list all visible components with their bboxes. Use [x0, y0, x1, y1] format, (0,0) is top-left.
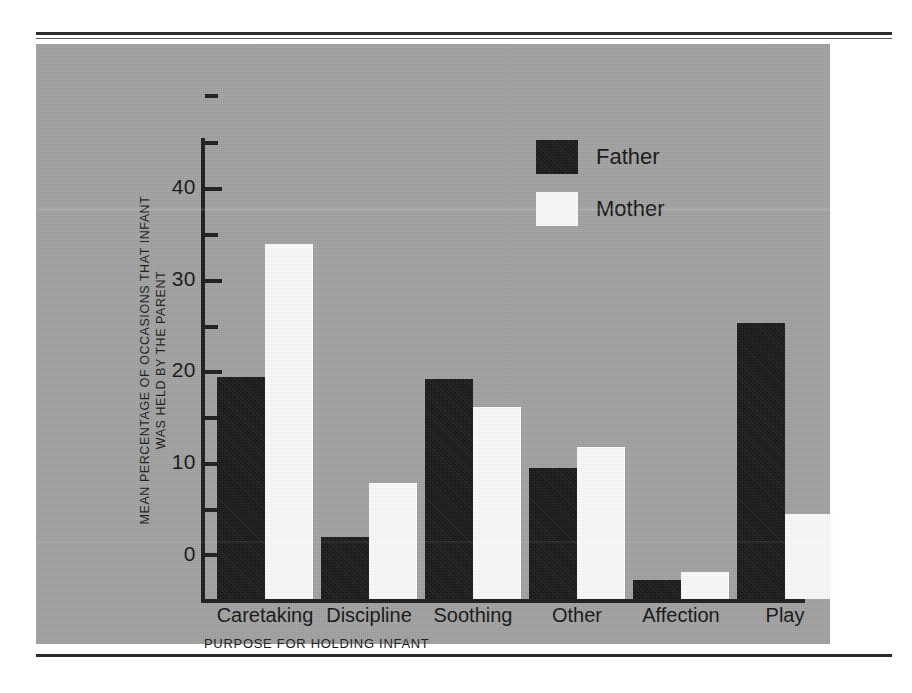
- x-tick-label-play: Play: [715, 604, 855, 627]
- legend-label-father: Father: [596, 144, 660, 170]
- legend-swatch-father-icon: [536, 140, 578, 174]
- bar-soothing-father: [425, 379, 473, 599]
- figure-page: MEAN PERCENTAGE OF OCCASIONS THAT INFANT…: [0, 0, 912, 693]
- bar-caretaking-father: [217, 377, 265, 599]
- top-rule-thick: [36, 32, 892, 35]
- x-axis-title: PURPOSE FOR HOLDING INFANT: [204, 636, 430, 651]
- chart-plate: MEAN PERCENTAGE OF OCCASIONS THAT INFANT…: [36, 44, 830, 644]
- legend-item-father: Father: [536, 140, 664, 174]
- top-rule-thin: [36, 38, 892, 39]
- legend-label-mother: Mother: [596, 196, 664, 222]
- bar-soothing-mother: [473, 407, 521, 599]
- bar-affection-mother: [681, 572, 729, 599]
- legend-swatch-mother-icon: [536, 192, 578, 226]
- bottom-rule: [36, 654, 892, 657]
- chart-legend: Father Mother: [536, 140, 664, 244]
- bar-caretaking-mother: [265, 244, 313, 599]
- bar-other-mother: [577, 447, 625, 599]
- bar-play-father: [737, 323, 785, 599]
- legend-item-mother: Mother: [536, 192, 664, 226]
- bar-affection-father: [633, 580, 681, 599]
- bar-discipline-mother: [369, 483, 417, 599]
- bar-group: [36, 44, 830, 644]
- bar-discipline-father: [321, 537, 369, 599]
- bar-other-father: [529, 468, 577, 599]
- bar-play-mother: [785, 514, 833, 599]
